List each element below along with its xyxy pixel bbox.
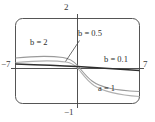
ymin-tick-label: −1 bbox=[64, 108, 74, 117]
curve-label-b-2: b = 2 bbox=[30, 38, 48, 47]
curve-label-b-0-1: b = 0.1 bbox=[104, 55, 128, 64]
exponential-functions-graph-figure: 2 −1 −7 7 b = 2 b = 0.5 b = 0.1 a = 1 bbox=[0, 0, 155, 122]
xmax-tick-label: 7 bbox=[143, 60, 148, 69]
parameter-label-a-1: a = 1 bbox=[98, 84, 115, 93]
xmin-tick-label: −7 bbox=[1, 60, 11, 69]
ymax-tick-label: 2 bbox=[64, 3, 69, 12]
curve-label-b-0-5: b = 0.5 bbox=[78, 29, 102, 38]
plot-canvas bbox=[0, 0, 155, 122]
